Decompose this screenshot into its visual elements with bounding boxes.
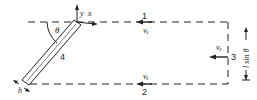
x-arrowhead-icon — [92, 22, 98, 26]
flow-diagram: 1 vₓ vₓ 2 vₓ 3 4 θ y x h l sin θ — [0, 0, 257, 100]
dimension-label: l sin θ — [242, 48, 251, 68]
angle-label: θ — [55, 25, 60, 35]
segment-1-label: 1 — [142, 11, 147, 21]
segment-2-label: 2 — [142, 87, 147, 97]
y-arrowhead-icon — [75, 4, 79, 10]
segment-1-velocity: vₓ — [143, 26, 149, 35]
x-axis-label: x — [87, 9, 92, 18]
segment-4-label: 4 — [60, 52, 65, 62]
arrow-2-icon — [136, 82, 143, 87]
y-axis-label: y — [79, 9, 84, 18]
thickness-label: h — [18, 86, 22, 95]
segment-2-velocity: vₓ — [143, 72, 149, 81]
arrow-3-icon — [209, 55, 216, 60]
segment-3-velocity: vₓ — [216, 43, 222, 52]
segment-3-label: 3 — [231, 52, 236, 62]
inclined-plate — [22, 20, 81, 85]
